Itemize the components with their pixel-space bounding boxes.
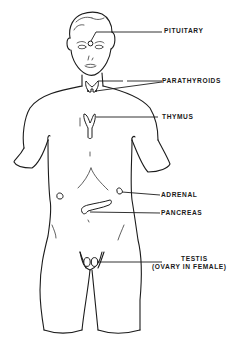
body-illustration	[0, 0, 250, 345]
thymus-gland	[84, 114, 95, 139]
head	[67, 12, 115, 75]
testis-right	[91, 258, 97, 267]
leader-lines	[90, 32, 162, 262]
label-pancreas: PANCREAS	[161, 210, 202, 217]
label-parathyroids: PARATHYROIDS	[162, 78, 221, 85]
label-ovary-note: (OVARY IN FEMALE)	[152, 264, 227, 271]
label-thymus: THYMUS	[162, 114, 193, 121]
label-testis: TESTIS	[181, 256, 208, 263]
label-adrenal: ADRENAL	[161, 192, 197, 199]
adrenal-gland	[117, 188, 123, 194]
testis-left	[84, 258, 90, 267]
adrenal-gland-left	[57, 193, 63, 199]
label-pituitary: PITUITARY	[164, 28, 203, 35]
endocrine-diagram: PITUITARY PARATHYROIDS THYMUS ADRENAL PA…	[0, 0, 250, 345]
pituitary-gland	[88, 41, 93, 46]
